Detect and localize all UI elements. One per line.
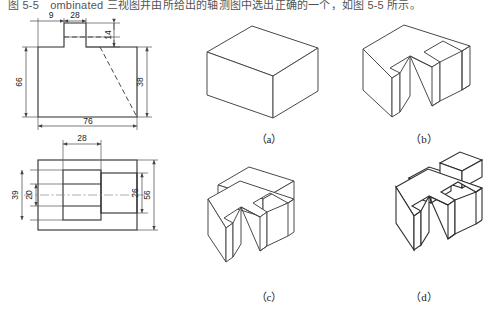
option-label-a: （a） xyxy=(249,130,289,146)
option-label-b: （b） xyxy=(404,130,444,146)
isometric-option-b[interactable] xyxy=(363,25,470,117)
top-view-dimension-lines xyxy=(22,140,158,230)
technical-drawing-canvas: 9 28 14 66 38 76 xyxy=(0,0,501,315)
isometric-option-a[interactable] xyxy=(207,26,318,118)
front-dim-9: 9 xyxy=(49,10,54,20)
front-dim-76: 76 xyxy=(83,116,93,126)
option-label-c: （c） xyxy=(249,288,289,304)
top-dim-20: 20 xyxy=(24,190,34,200)
front-dim-28: 28 xyxy=(70,10,80,20)
top-dim-26: 26 xyxy=(130,188,140,198)
front-dim-38: 38 xyxy=(135,77,145,87)
front-view-dimension-lines xyxy=(22,18,152,130)
front-view-diagonal-line xyxy=(100,47,137,117)
front-dim-66: 66 xyxy=(14,77,24,87)
front-dim-14: 14 xyxy=(103,30,113,40)
top-dim-56: 56 xyxy=(142,190,152,200)
top-dim-28: 28 xyxy=(77,133,87,143)
top-dim-39: 39 xyxy=(10,190,20,200)
drawing-sheet: 图 5-5 ombinated 三视图并由所给出的轴测图中选出正确的一个，如图 … xyxy=(0,0,501,315)
isometric-option-d[interactable] xyxy=(396,152,482,250)
option-label-d: （d） xyxy=(404,288,444,304)
isometric-option-c[interactable] xyxy=(208,167,294,262)
